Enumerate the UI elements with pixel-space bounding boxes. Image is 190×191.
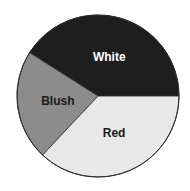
slice-label-blush: Blush [41,94,74,108]
pie-chart: WhiteBlushRed [0,0,190,191]
slice-label-red: Red [103,126,126,140]
slice-label-white: White [93,50,126,64]
